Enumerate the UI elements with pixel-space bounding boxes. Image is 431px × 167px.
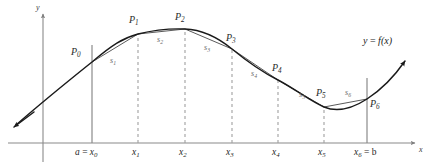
function-label-equals: = (367, 35, 378, 46)
tick-label-x6-b: x6 = b (354, 148, 377, 159)
tick-label-x1: x1 (132, 148, 140, 159)
tick-label-b-op: = b (362, 147, 377, 157)
tick-label-x0-index: 0 (94, 151, 97, 158)
point-label-p4-index: 4 (278, 67, 282, 75)
function-label: y = f(x) (363, 36, 392, 46)
function-label-arg: (x) (381, 35, 392, 46)
segment-label-s3-index: 3 (207, 47, 210, 53)
segment-label-s1-index: 1 (113, 60, 116, 66)
tick-label-x5: x5 (318, 148, 326, 159)
point-label-p1-index: 1 (135, 19, 139, 27)
tick-label-a-op: = (80, 147, 90, 157)
tick-label-x1-index: 1 (136, 151, 139, 158)
curve-left-arrow (14, 112, 34, 127)
segment-label-s5-index: 5 (302, 94, 305, 100)
figure-canvas (0, 0, 431, 167)
y-axis-label: y (36, 4, 40, 12)
segment-label-s3: s3 (204, 44, 210, 53)
segment-label-s6: s6 (345, 89, 351, 98)
segment-label-s4: s4 (251, 70, 257, 79)
segment-label-s1: s1 (110, 57, 116, 66)
segment-label-s4-index: 4 (254, 73, 257, 79)
point-label-p3-index: 3 (232, 37, 236, 45)
point-label-p0: P0 (71, 47, 81, 59)
point-label-p5-index: 5 (322, 92, 326, 100)
arc-length-figure: y x y = f(x) P0 P1 P2 P3 P4 P5 P6 s1 s2 … (0, 0, 431, 167)
segment-label-s6-index: 6 (348, 92, 351, 98)
segment-label-s2-index: 2 (160, 39, 163, 45)
point-label-p6-index: 6 (376, 103, 380, 111)
point-label-p1: P1 (129, 15, 139, 27)
segment-label-s2: s2 (157, 36, 163, 45)
tick-label-x3-index: 3 (230, 151, 233, 158)
tick-label-x5-index: 5 (322, 151, 325, 158)
tick-label-x4: x4 (272, 148, 280, 159)
point-label-p4: P4 (272, 63, 282, 75)
point-label-p6: P6 (370, 99, 380, 111)
tick-label-x2: x2 (179, 148, 187, 159)
point-label-p2: P2 (175, 12, 185, 24)
segment-label-s5: s5 (299, 91, 305, 100)
point-label-p3: P3 (226, 33, 236, 45)
tick-label-x2-index: 2 (183, 151, 186, 158)
tick-label-x3: x3 (226, 148, 234, 159)
point-label-p0-index: 0 (77, 51, 81, 59)
tick-label-a-x0: a = x0 (75, 148, 98, 159)
x-axis-label: x (419, 146, 423, 154)
point-label-p5: P5 (316, 88, 326, 100)
tick-label-x4-index: 4 (276, 151, 279, 158)
function-curve (16, 29, 405, 125)
point-label-p2-index: 2 (181, 16, 185, 24)
